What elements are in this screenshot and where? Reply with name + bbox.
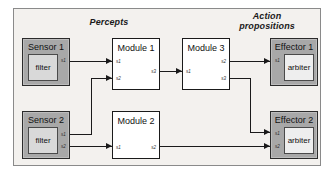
node-module1[interactable]: Module 1 s1 s2 s3 (112, 38, 160, 90)
node-module1-port-s1: s1 (116, 59, 121, 64)
node-sensor2[interactable]: Sensor 2 filter s1 s2 (22, 111, 70, 159)
node-module2-port-s2: s2 (151, 145, 156, 150)
wire-module3-s3-seg2 (250, 78, 251, 133)
node-sensor2-title: Sensor 2 (23, 115, 69, 125)
node-effector1-inner-arbiter: arbiter (284, 54, 314, 81)
node-sensor1-title: Sensor 1 (23, 42, 69, 52)
wire-module3-s3-seg1 (230, 78, 251, 79)
node-module3-port-s3: s3 (221, 76, 226, 81)
node-module3-port-s1: s1 (186, 69, 191, 74)
wire-sensor2-s1-seg2 (91, 78, 92, 135)
node-effector1[interactable]: Effector 1 arbiter s1 (270, 38, 318, 86)
node-module3-title: Module 3 (183, 43, 229, 53)
node-module1-title: Module 1 (113, 43, 159, 53)
node-effector2-port-s1: s1 (275, 131, 280, 136)
diagram-canvas: Percepts Action propositions Sensor 1 fi… (0, 0, 335, 179)
node-effector2-port-s2: s2 (275, 144, 280, 149)
node-sensor2-port-s2: s2 (61, 144, 66, 149)
node-module1-port-s3: s3 (151, 69, 156, 74)
wire-module2-to-effector2 (160, 146, 270, 147)
section-header-action-propositions: Action propositions (228, 11, 306, 31)
node-effector2[interactable]: Effector 2 arbiter s1 s2 (270, 111, 318, 159)
node-effector1-title: Effector 1 (271, 42, 317, 52)
wire-sensor2-s1-seg1 (70, 134, 92, 135)
node-sensor1-inner-filter: filter (28, 54, 58, 81)
node-module3-port-s2: s2 (221, 59, 226, 64)
node-effector1-port-s1: s1 (275, 58, 280, 63)
node-effector2-inner-arbiter: arbiter (284, 127, 314, 154)
node-sensor1-port-s1: s1 (61, 58, 66, 63)
node-module3[interactable]: Module 3 s1 s2 s3 (182, 38, 230, 90)
node-sensor1[interactable]: Sensor 1 filter s1 (22, 38, 70, 86)
node-sensor2-inner-filter: filter (28, 127, 58, 154)
node-effector2-title: Effector 2 (271, 115, 317, 125)
node-module2-port-s1: s1 (116, 145, 121, 150)
node-module1-port-s2: s2 (116, 76, 121, 81)
node-module2[interactable]: Module 2 s1 s2 (112, 111, 160, 159)
node-module2-title: Module 2 (113, 116, 159, 126)
node-sensor2-port-s1: s1 (61, 132, 66, 137)
section-header-percepts: Percepts (74, 17, 144, 27)
